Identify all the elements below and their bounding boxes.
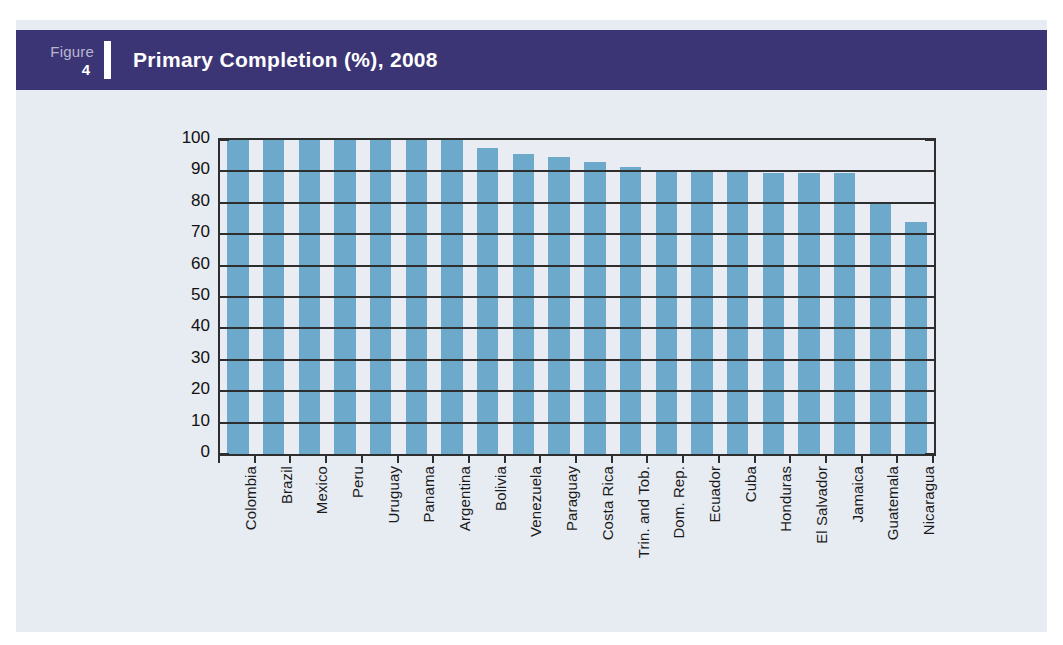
x-tick-mark <box>754 454 756 463</box>
x-tick-mark <box>575 454 577 463</box>
y-tick-label: 40 <box>191 316 210 336</box>
bar <box>691 171 712 454</box>
x-tick-mark <box>325 454 327 463</box>
x-tick-mark <box>646 454 648 463</box>
x-tick-mark <box>289 454 291 463</box>
bar <box>620 167 641 454</box>
x-category-label: El Salvador <box>813 466 830 544</box>
x-tick-mark <box>682 454 684 463</box>
x-tick-mark <box>789 454 791 463</box>
x-category-label: Ecuador <box>706 466 723 523</box>
x-tick-mark <box>468 454 470 463</box>
x-tick-mark <box>896 454 898 463</box>
x-tick-mark <box>218 454 220 463</box>
chart-area: Percent 0102030405060708090100 ColombiaB… <box>16 110 1047 620</box>
banner-divider <box>104 41 111 79</box>
x-tick-mark <box>397 454 399 463</box>
bar <box>477 148 498 454</box>
x-category-label: Uruguay <box>385 466 402 523</box>
x-axis-category-labels: ColombiaBrazilMexicoPeruUruguayPanamaArg… <box>218 466 932 606</box>
figure-title: Primary Completion (%), 2008 <box>133 48 438 72</box>
y-tick-label: 10 <box>191 411 210 431</box>
x-axis-tick-marks <box>218 454 932 463</box>
figure-banner: Figure 4 Primary Completion (%), 2008 <box>16 30 1047 90</box>
gridline-overlay <box>220 233 934 235</box>
gridline-overlay <box>220 327 934 329</box>
y-tick-label: 60 <box>191 254 210 274</box>
gridline-overlay <box>220 359 934 361</box>
gridline-overlay <box>220 170 934 172</box>
y-tick-label: 70 <box>191 222 210 242</box>
figure-number-block: Figure 4 <box>16 44 94 77</box>
gridline-overlay <box>220 296 934 298</box>
x-tick-mark <box>861 454 863 463</box>
bar <box>727 171 748 454</box>
x-category-label: Cuba <box>742 466 759 502</box>
bar <box>513 154 534 454</box>
x-category-label: Brazil <box>278 466 295 504</box>
bar <box>656 170 677 454</box>
y-axis-tick-labels: 0102030405060708090100 <box>166 138 210 452</box>
figure-root: Figure 4 Primary Completion (%), 2008 Pe… <box>0 0 1063 645</box>
x-category-label: Trin. and Tob. <box>635 466 652 558</box>
x-tick-mark <box>504 454 506 463</box>
y-tick-label: 20 <box>191 379 210 399</box>
figure-word-label: Figure <box>50 44 94 59</box>
x-tick-mark <box>539 454 541 463</box>
x-category-label: Venezuela <box>527 466 544 537</box>
bar <box>905 222 926 454</box>
plot-frame <box>218 138 936 456</box>
x-category-label: Colombia <box>242 466 259 530</box>
x-tick-mark <box>361 454 363 463</box>
gridline-overlay <box>220 265 934 267</box>
x-category-label: Panama <box>420 466 437 522</box>
gridline-overlay <box>220 422 934 424</box>
bar <box>584 162 605 454</box>
x-category-label: Dom. Rep. <box>670 466 687 539</box>
bar <box>763 173 784 454</box>
x-category-label: Peru <box>349 466 366 498</box>
x-category-label: Guatemala <box>884 466 901 540</box>
x-tick-mark <box>718 454 720 463</box>
x-category-label: Honduras <box>777 466 794 532</box>
y-tick-label: 50 <box>191 285 210 305</box>
x-category-label: Nicaragua <box>920 466 937 535</box>
axis-tick-mark <box>925 139 934 141</box>
x-category-label: Jamaica <box>849 466 866 523</box>
x-category-label: Argentina <box>456 466 473 531</box>
x-tick-mark <box>932 454 934 463</box>
gridline-overlay <box>220 202 934 204</box>
x-tick-mark <box>432 454 434 463</box>
x-tick-mark <box>825 454 827 463</box>
x-tick-mark <box>254 454 256 463</box>
x-category-label: Costa Rica <box>599 466 616 540</box>
y-tick-label: 90 <box>191 159 210 179</box>
y-tick-label: 30 <box>191 348 210 368</box>
y-tick-label: 0 <box>201 442 210 462</box>
gridline-overlay <box>220 390 934 392</box>
y-tick-label: 100 <box>182 128 210 148</box>
x-tick-mark <box>611 454 613 463</box>
figure-number: 4 <box>82 62 90 77</box>
y-tick-label: 80 <box>191 191 210 211</box>
x-category-label: Mexico <box>313 466 330 514</box>
bar <box>834 173 855 454</box>
axis-tick-mark <box>220 139 229 141</box>
x-category-label: Paraguay <box>563 466 580 531</box>
bar <box>798 173 819 454</box>
x-category-label: Bolivia <box>492 466 509 511</box>
